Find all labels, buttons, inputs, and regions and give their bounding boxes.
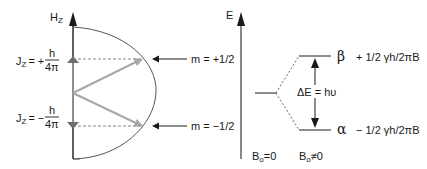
transition-arrow-up-icon [311,58,319,68]
svg-text:JZ= +: JZ= + [16,55,44,69]
beta-energy: + 1/2 γh/2πB [356,51,420,63]
jz-down-marker-icon [67,122,79,129]
transition-arrow-down-icon [311,118,319,128]
beta-symbol: β [337,48,345,64]
energy-axis-arrow-icon [237,12,245,26]
jz-up-marker-icon [67,56,79,63]
svg-text:h: h [49,104,55,116]
energy-level-panel: E ΔE = hυ β + 1/2 γh/2πB α − 1/2 γh/2πB … [226,9,420,164]
svg-text:JZ= −: JZ= − [16,112,44,126]
alpha-energy: − 1/2 γh/2πB [356,124,420,136]
spin-vector-down [73,93,138,124]
m-plus-pointer-arrow-icon [152,56,159,63]
m-minus-label: m = −1/2 [191,120,234,132]
jz-plus-label: JZ= + h 4π [16,47,59,73]
jz-minus-label: JZ= − h 4π [16,104,59,130]
hz-axis-arrow-icon [69,12,77,26]
svg-text:4π: 4π [45,61,59,73]
alpha-symbol: α [337,121,347,137]
field-off-label: Bo=0 [252,150,276,164]
split-line-up [276,56,299,93]
m-minus-pointer-arrow-icon [152,123,159,130]
m-plus-label: m = +1/2 [191,53,234,65]
split-line-down [276,93,299,130]
spin-vector-panel: HZ JZ= + h 4π JZ= − h 4π m = +1/2 m = −1… [16,11,234,159]
svg-text:h: h [49,47,55,59]
precession-arc [73,27,156,159]
nmr-spin-diagram: HZ JZ= + h 4π JZ= − h 4π m = +1/2 m = −1… [0,0,427,169]
svg-text:4π: 4π [45,118,59,130]
energy-axis-label: E [226,9,233,21]
hz-axis-label: HZ [50,11,63,25]
transition-energy-label: ΔE = hυ [297,86,336,98]
field-on-label: Bo≠0 [299,150,323,164]
spin-vector-up [73,61,138,93]
